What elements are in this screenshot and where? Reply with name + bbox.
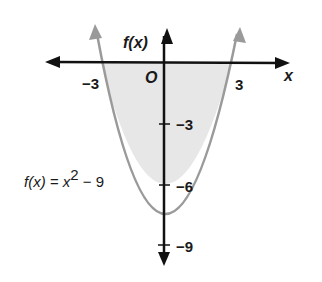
parabola-graph: f(x) x O −3 3 −3 −6 −9 f(x) = x2 − 9	[0, 0, 322, 282]
function-label-prefix: f(x) = x	[24, 173, 71, 190]
function-label: f(x) = x2 − 9	[24, 166, 104, 190]
x-axis-arrow-left-icon	[45, 56, 60, 68]
y-tick-label: −6	[176, 178, 193, 195]
y-axis-arrow-down-icon	[158, 252, 170, 266]
function-label-suffix: − 9	[79, 173, 104, 190]
curve-arrow-left-icon	[89, 24, 102, 40]
x-tick-label: 3	[235, 76, 243, 93]
x-tick-label: −3	[82, 75, 99, 92]
function-label-exponent: 2	[70, 166, 78, 183]
y-tick-label: −3	[176, 116, 193, 133]
x-axis-label: x	[283, 67, 294, 84]
y-axis-label: f(x)	[123, 34, 148, 51]
curve-arrow-right-icon	[233, 27, 246, 43]
y-tick-label: −9	[176, 238, 193, 255]
origin-label: O	[145, 69, 158, 86]
x-axis	[52, 62, 282, 63]
shaded-region	[101, 62, 232, 184]
